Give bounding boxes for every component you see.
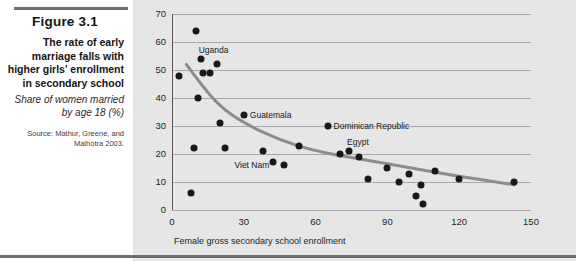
data-point bbox=[396, 179, 403, 186]
data-point bbox=[346, 148, 353, 155]
data-point bbox=[511, 179, 518, 186]
data-point-label: Egypt bbox=[347, 137, 369, 147]
y-tick-label: 70 bbox=[132, 8, 166, 19]
data-point bbox=[456, 176, 463, 183]
caption-text-block: Figure 3.1 The rate of early marriage fa… bbox=[6, 14, 128, 149]
data-point bbox=[216, 120, 223, 127]
data-point bbox=[190, 145, 197, 152]
data-point bbox=[295, 142, 302, 149]
data-point bbox=[420, 201, 427, 208]
data-point bbox=[269, 159, 276, 166]
data-point-label: Viet Nam bbox=[234, 160, 269, 170]
data-point bbox=[432, 167, 439, 174]
data-point bbox=[281, 162, 288, 169]
x-tick-label: 60 bbox=[301, 216, 331, 227]
y-tick-label: 60 bbox=[132, 36, 166, 47]
data-point bbox=[176, 72, 183, 79]
y-tick-label: 50 bbox=[132, 64, 166, 75]
x-axis-title: Female gross secondary school enrollment bbox=[174, 236, 346, 246]
figure-subtitle: Share of women married by age 18 (%) bbox=[6, 93, 124, 119]
data-point-label: Guatemala bbox=[250, 110, 292, 120]
data-point bbox=[192, 27, 199, 34]
gridline bbox=[172, 210, 531, 211]
y-tick-label: 20 bbox=[132, 148, 166, 159]
trend-line bbox=[172, 14, 531, 210]
y-tick-label: 0 bbox=[132, 204, 166, 215]
x-tick-label: 0 bbox=[157, 216, 187, 227]
data-point-label: Dominican Republic bbox=[334, 121, 410, 131]
x-tick-label: 120 bbox=[444, 216, 474, 227]
caption-top-rule bbox=[14, 7, 128, 10]
plot-area: 010203040506070 0306090120150 UgandaGuat… bbox=[172, 14, 531, 210]
data-point-label: Uganda bbox=[199, 45, 229, 55]
data-point bbox=[384, 165, 391, 172]
data-point bbox=[365, 176, 372, 183]
data-point bbox=[207, 69, 214, 76]
x-tick-label: 150 bbox=[516, 216, 546, 227]
data-point bbox=[417, 181, 424, 188]
figure-number: Figure 3.1 bbox=[6, 14, 124, 29]
y-tick-label: 40 bbox=[132, 92, 166, 103]
y-tick-label: 10 bbox=[132, 176, 166, 187]
x-tick-label: 30 bbox=[229, 216, 259, 227]
chart-panel: 010203040506070 0306090120150 UgandaGuat… bbox=[133, 0, 576, 261]
data-point bbox=[197, 55, 204, 62]
caption-panel: Figure 3.1 The rate of early marriage fa… bbox=[0, 0, 133, 261]
data-point bbox=[240, 111, 247, 118]
data-point bbox=[355, 153, 362, 160]
data-point bbox=[336, 151, 343, 158]
figure-bottom-rule bbox=[0, 255, 576, 258]
y-tick-label: 30 bbox=[132, 120, 166, 131]
data-point bbox=[405, 170, 412, 177]
data-point bbox=[221, 145, 228, 152]
figure-source: Source: Mathur, Greene, and Malhotra 200… bbox=[6, 129, 124, 149]
data-point bbox=[259, 148, 266, 155]
data-point bbox=[413, 193, 420, 200]
data-point bbox=[200, 69, 207, 76]
data-point bbox=[324, 123, 331, 130]
x-tick-label: 90 bbox=[372, 216, 402, 227]
figure-container: Figure 3.1 The rate of early marriage fa… bbox=[0, 0, 576, 261]
data-point bbox=[188, 190, 195, 197]
data-point bbox=[214, 61, 221, 68]
data-point bbox=[195, 95, 202, 102]
figure-title: The rate of early marriage falls with hi… bbox=[6, 36, 124, 90]
